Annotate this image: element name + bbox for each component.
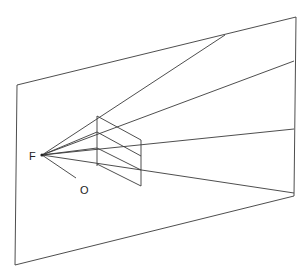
picture-plane <box>15 17 296 265</box>
prism-line-2 <box>97 132 141 156</box>
prism-line-4 <box>97 164 141 186</box>
ray-3 <box>42 129 294 155</box>
prism-line-1 <box>97 116 141 140</box>
ray-1 <box>42 35 225 155</box>
perspective-diagram: F O <box>0 0 308 275</box>
sight-rays <box>42 35 294 193</box>
focal-point-label: F <box>29 150 36 162</box>
observer-line <box>42 155 76 178</box>
focal-point-dot <box>40 153 43 156</box>
observer-label: O <box>80 184 89 196</box>
ray-2 <box>42 61 294 155</box>
